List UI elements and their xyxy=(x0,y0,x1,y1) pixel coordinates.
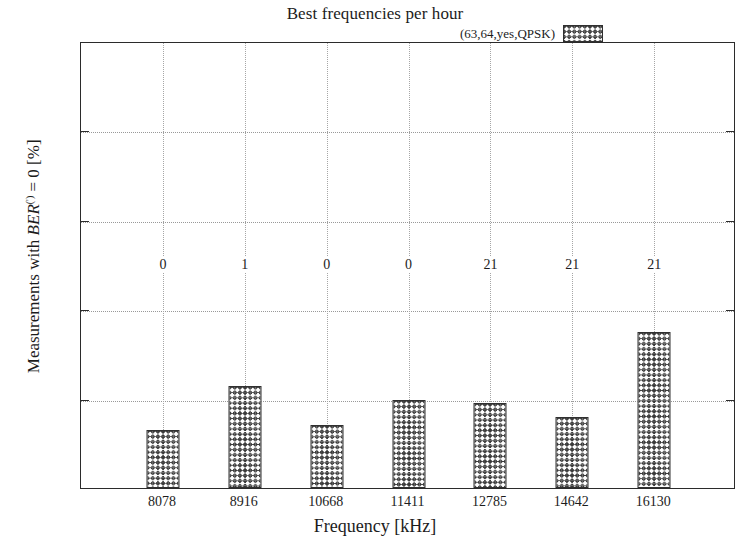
bar-12785 xyxy=(474,403,507,488)
bar-11411 xyxy=(392,400,425,489)
x-tick-label: 16130 xyxy=(636,494,671,510)
bar-16130 xyxy=(638,332,671,488)
y-axis-title-suffix: = 0 [%] xyxy=(24,139,43,195)
y-axis-title-variable: BER xyxy=(24,204,43,235)
grid-line-horizontal xyxy=(81,311,734,312)
chart-root: Best frequencies per hour 0100212121 020… xyxy=(0,0,750,547)
x-tick-label: 10668 xyxy=(308,494,343,510)
x-tick-label: 8078 xyxy=(148,494,176,510)
x-tick-label: 11411 xyxy=(391,494,425,510)
bar-value-label: 1 xyxy=(239,257,250,273)
plot-inner: 0100212121 xyxy=(81,43,734,488)
x-axis-title: Frequency [kHz] xyxy=(0,516,750,537)
bar-value-label: 21 xyxy=(481,257,499,273)
y-tick-mark xyxy=(80,400,89,401)
bar-value-label: 0 xyxy=(321,257,332,273)
y-tick-mark xyxy=(80,310,89,311)
grid-line-horizontal xyxy=(81,222,734,223)
x-tick-label: 14642 xyxy=(554,494,589,510)
y-tick-mark-right xyxy=(726,400,735,401)
bar-8916 xyxy=(228,386,261,488)
legend: (63,64,yes,QPSK) xyxy=(459,25,603,42)
legend-swatch-icon xyxy=(563,25,603,42)
bar-value-label: 0 xyxy=(157,257,168,273)
x-tick-label: 8916 xyxy=(230,494,258,510)
y-axis-title: Measurements with BER(') = 0 [%] xyxy=(24,36,45,476)
chart-title: Best frequencies per hour xyxy=(0,4,750,24)
bar-value-label: 21 xyxy=(645,257,663,273)
bar-10668 xyxy=(310,425,343,488)
x-tick-label: 12785 xyxy=(472,494,507,510)
grid-line-horizontal xyxy=(81,132,734,133)
y-tick-mark-right xyxy=(726,131,735,132)
y-axis-title-prefix: Measurements with xyxy=(24,235,43,373)
bar-value-label: 0 xyxy=(403,257,414,273)
y-tick-mark xyxy=(80,221,89,222)
plot-area: 0100212121 xyxy=(80,42,735,489)
y-axis-title-superscript: (') xyxy=(24,196,35,204)
y-tick-mark-right xyxy=(726,221,735,222)
legend-entry-label: (63,64,yes,QPSK) xyxy=(459,26,556,42)
bar-14642 xyxy=(556,417,589,488)
y-tick-mark-right xyxy=(726,310,735,311)
bar-8078 xyxy=(146,430,179,488)
y-tick-mark xyxy=(80,131,89,132)
bar-value-label: 21 xyxy=(563,257,581,273)
